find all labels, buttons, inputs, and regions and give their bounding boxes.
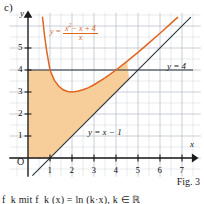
curve-equation-annotation: y = x2− x + 4 x	[50, 22, 98, 42]
curve-equation-numerator: x2− x + 4	[63, 22, 98, 33]
x-axis-name: x	[190, 140, 194, 149]
curve-equation-fraction: x2− x + 4 x	[63, 22, 98, 42]
curve-equation-lhs: y =	[50, 28, 61, 36]
x-tick-label-5: 5	[136, 166, 141, 175]
x-tick-label-1: 1	[48, 166, 53, 175]
x-tick-label-2: 2	[70, 166, 75, 175]
coordinate-plot	[0, 8, 204, 180]
x-tick-label-7: 7	[180, 166, 185, 175]
y-tick-label-1: 1	[18, 131, 23, 140]
y-tick-label-3: 3	[18, 87, 23, 96]
curve-equation-denominator: x	[63, 33, 98, 42]
figure-container: c) y x O y = x2− x + 4 x y = 4 y = x − 1…	[0, 0, 204, 204]
y-tick-label-2: 2	[18, 109, 23, 118]
bottom-text-line: f_k mit f_k (x) = ln (k·x), k ∈ ℝ	[2, 195, 141, 204]
x-tick-label-6: 6	[158, 166, 163, 175]
horizontal-line-label: y = 4	[167, 62, 186, 71]
shaded-region	[28, 61, 129, 158]
y-axis-name: y	[20, 9, 24, 18]
figure-caption: Fig. 3	[177, 177, 200, 187]
x-tick-label-3: 3	[92, 166, 97, 175]
y-axis-arrow	[24, 11, 33, 18]
x-axis-arrow	[192, 153, 199, 162]
y-tick-label-4: 4	[18, 65, 23, 74]
origin-label: O	[17, 157, 24, 167]
asymptote-label: y = x − 1	[88, 128, 122, 137]
y-tick-label-5: 5	[18, 43, 23, 52]
x-tick-label-4: 4	[114, 166, 119, 175]
